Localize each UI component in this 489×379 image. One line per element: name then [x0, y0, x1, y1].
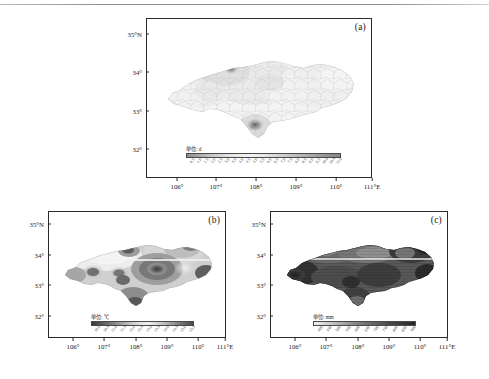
- panel-b-colorbar-ticks-label: 13.5: [153, 324, 161, 333]
- panel-a-region-shape: [158, 46, 364, 141]
- panel-a-xtick-1: 107°: [210, 178, 223, 190]
- panel-c-ytick-0: 35°N: [252, 221, 270, 228]
- panel-c-xtick-0: 106°: [289, 338, 302, 350]
- panel-b-ytick-1: 34°: [34, 252, 48, 259]
- panel-b-colorbar-ticks-label: 11.0: [110, 324, 118, 333]
- panel-a-xtick-5: 111°E: [364, 178, 381, 190]
- panel-b-region-shape: [57, 233, 220, 308]
- panel-b-ytick-0: 35°N: [30, 221, 48, 228]
- panel-c-colorbar-ticks-label: 650: [363, 325, 371, 333]
- panel-a-ytick-2: 33°: [132, 108, 146, 115]
- panel-a-colorbar-ticks-label: 0.5: [188, 157, 195, 164]
- panel-b-xtick-3: 109°: [161, 338, 174, 350]
- panel-c-colorbar-unit: 单位: mm: [313, 315, 416, 320]
- panel-b-colorbar-ticks-label: 10.0: [93, 324, 101, 333]
- panel-c-colorbar-ticks-label: 850: [400, 325, 408, 333]
- panel-b-colorbar-ticks-label: 14.5: [170, 324, 178, 333]
- panel-c-colorbar-ticks-label: 500: [335, 325, 343, 333]
- panel-a-xtick-3: 109°: [290, 178, 303, 190]
- figure-three-panel-maps: (a) 35°N 34° 33° 32° 106° 107° 108° 109°…: [0, 0, 489, 379]
- panel-b-map: [57, 233, 220, 308]
- panel-b-ytick-3: 32°: [34, 313, 48, 320]
- panel-b-xtick-4: 110°: [192, 338, 205, 350]
- panel-b-xtick-0: 106°: [67, 338, 80, 350]
- panel-c-ytick-3: 32°: [256, 313, 270, 320]
- panel-b-ytick-2: 33°: [34, 282, 48, 289]
- panel-c-ytick-2: 33°: [256, 282, 270, 289]
- panel-b-colorbar-ticks-label: 14.0: [162, 324, 170, 333]
- panel-b-xtick-5: 111°E: [217, 338, 234, 350]
- panel-b-colorbar-ticks-label: 12.5: [136, 324, 144, 333]
- panel-c-colorbar-ticks: 400450500550600650700750800850900: [313, 326, 416, 337]
- panel-c-colorbar-ticks-label: 550: [344, 325, 352, 333]
- panel-c-xtick-5: 111°E: [439, 338, 456, 350]
- panel-a-colorbar: 单位: d 0.51.01.52.02.53.03.54.04.55.05.56…: [186, 147, 341, 169]
- panel-a-xtick-4: 110°: [330, 178, 343, 190]
- panel-c-colorbar-ticks-label: 900: [409, 325, 417, 333]
- panel-c-xtick-1: 107°: [320, 338, 333, 350]
- panel-a-xtick-0: 106°: [171, 178, 184, 190]
- panel-b-colorbar-ticks: 10.010.511.011.512.012.513.013.514.014.5…: [91, 326, 194, 337]
- panel-c-ytick-1: 34°: [256, 252, 270, 259]
- panel-c-xtick-3: 109°: [383, 338, 396, 350]
- panel-a-ytick-1: 34°: [132, 69, 146, 76]
- panel-c-colorbar-ticks-label: 400: [316, 325, 324, 333]
- panel-c: (c) 35°N 34° 33° 32° 106° 107° 108° 109°…: [270, 211, 448, 338]
- panel-b-colorbar-ticks-label: 12.0: [127, 324, 135, 333]
- panel-a-ytick-3: 32°: [132, 146, 146, 153]
- panel-b-xtick-2: 108°: [130, 338, 143, 350]
- panel-b-xtick-1: 107°: [98, 338, 111, 350]
- panel-a-xtick-2: 108°: [250, 178, 263, 190]
- panel-a-tag: (a): [355, 22, 366, 32]
- panel-b-colorbar-ticks-label: 11.5: [119, 324, 127, 333]
- panel-c-colorbar-ticks-label: 450: [325, 325, 333, 333]
- panel-a-colorbar-ticks-label: 1.0: [195, 157, 202, 164]
- header-rule: [0, 4, 489, 5]
- panel-b-colorbar: 单位: ℃ 10.010.511.011.512.012.513.013.514…: [91, 315, 194, 337]
- panel-b-colorbar-unit: 单位: ℃: [91, 315, 194, 320]
- panel-c-colorbar-ticks-label: 600: [353, 325, 361, 333]
- panel-c-colorbar: 单位: mm 400450500550600650700750800850900: [313, 315, 416, 337]
- panel-b: (b) 35°N 34° 33° 32° 106° 107° 108° 109°…: [48, 211, 226, 338]
- panel-c-map: [279, 233, 442, 308]
- panel-a: (a) 35°N 34° 33° 32° 106° 107° 108° 109°…: [146, 18, 372, 178]
- panel-b-colorbar-ticks-label: 10.5: [102, 324, 110, 333]
- panel-c-colorbar-ticks-label: 750: [381, 325, 389, 333]
- panel-b-colorbar-ticks-label: 13.0: [145, 324, 153, 333]
- panel-c-region-shape: [279, 233, 442, 308]
- panel-a-colorbar-ticks: 0.51.01.52.02.53.03.54.04.55.05.56.06.57…: [186, 158, 341, 169]
- panel-b-tag: (b): [208, 215, 220, 225]
- panel-b-colorbar-ticks-label: 15.0: [179, 324, 187, 333]
- panel-c-xtick-4: 110°: [414, 338, 427, 350]
- panel-c-colorbar-ticks-label: 700: [372, 325, 380, 333]
- panel-c-xtick-2: 108°: [352, 338, 365, 350]
- panel-a-map: [158, 46, 364, 141]
- panel-a-ytick-0: 35°N: [128, 31, 146, 38]
- panel-c-colorbar-ticks-label: 800: [391, 325, 399, 333]
- panel-c-tag: (c): [431, 215, 442, 225]
- panel-a-colorbar-unit: 单位: d: [186, 147, 341, 152]
